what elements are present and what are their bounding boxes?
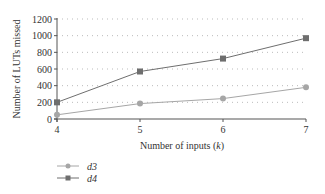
x-tick-label: 5 <box>138 124 143 135</box>
x-tick-label: 7 <box>304 124 309 135</box>
legend: d3 d4 <box>57 160 97 184</box>
x-tick-label: 4 <box>55 124 60 135</box>
data-point <box>303 35 309 41</box>
y-tick-label: 800 <box>37 47 52 58</box>
y-axis-title: Number of LUTs missed <box>11 19 22 118</box>
y-tick-label: 1000 <box>32 30 52 41</box>
line-chart: 0200400600800100012004567 Number of LUTs… <box>0 0 325 160</box>
y-tick-label: 1200 <box>32 14 52 25</box>
y-tick-label: 200 <box>37 97 52 108</box>
data-point <box>137 69 143 75</box>
circle-marker-icon <box>57 161 79 171</box>
x-axis-title: Number of inputs (k) <box>140 140 224 152</box>
square-marker-icon <box>57 173 79 183</box>
data-point <box>220 56 226 62</box>
data-point <box>54 112 60 118</box>
data-point <box>137 101 143 107</box>
series-lines <box>54 35 309 118</box>
gridlines <box>57 19 306 102</box>
data-point <box>220 96 226 102</box>
legend-label: d4 <box>87 173 97 184</box>
data-point <box>303 84 309 90</box>
data-point <box>54 99 60 105</box>
y-tick-label: 600 <box>37 64 52 75</box>
y-tick-label: 0 <box>47 114 52 125</box>
axes: 0200400600800100012004567 <box>32 14 309 136</box>
series-line-d3 <box>57 87 306 115</box>
y-tick-label: 400 <box>37 80 52 91</box>
legend-item-d4: d4 <box>57 172 97 184</box>
legend-label: d3 <box>87 161 97 172</box>
x-tick-label: 6 <box>221 124 226 135</box>
legend-item-d3: d3 <box>57 160 97 172</box>
